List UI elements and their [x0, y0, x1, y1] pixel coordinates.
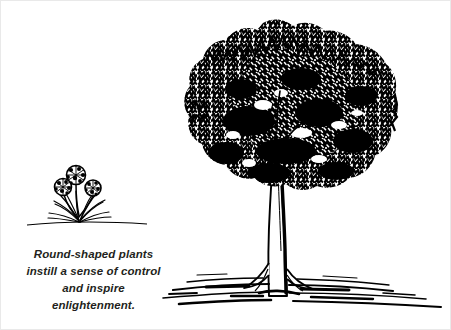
plant-flower-heads: [54, 163, 101, 197]
small-plant-ground-line: [27, 222, 147, 225]
tree-illustration: [181, 11, 406, 296]
caption-line: instill a sense of control: [11, 263, 176, 280]
tree-ground-line: [163, 274, 441, 307]
caption: Round-shaped plants instill a sense of c…: [11, 246, 176, 314]
caption-line: enlightenment.: [11, 297, 176, 314]
illustration-page: Round-shaped plants instill a sense of c…: [0, 0, 451, 330]
caption-line: and inspire: [11, 280, 176, 297]
small-plant-illustration: [27, 163, 147, 225]
caption-line: Round-shaped plants: [11, 246, 176, 263]
